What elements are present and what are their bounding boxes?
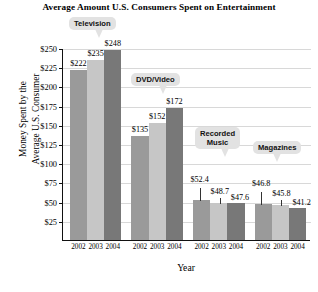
x-axis-tick-label: 2004 [167,243,181,251]
x-axis-tick-label: 2003 [212,243,226,251]
y-axis-tick-label: $200 [40,83,57,92]
callout-tail [159,85,167,94]
y-axis-tick-label: $175 [40,102,57,111]
x-axis-tick-label: 2004 [229,243,243,251]
bar-value-label: $52.4 [190,175,208,184]
chart-title: Average Amount U.S. Consumers Spent on E… [0,2,318,12]
y-axis-tick [59,145,63,146]
bar-value-label: $235 [87,49,103,58]
bar-value-label: $248 [105,39,121,48]
y-axis-tick [59,126,63,127]
y-axis-tick [59,107,63,108]
y-axis-tick-label: $50 [44,198,57,207]
callout-tail [95,29,103,38]
y-axis-tick [59,49,63,50]
bar-value-label: $47.6 [231,193,249,202]
x-axis-tick-label: 2002 [133,243,147,251]
bar[interactable] [70,70,87,240]
bar-value-label: $152 [149,112,165,121]
bar[interactable] [166,108,183,240]
plot-area: $25$50$75$100$125$150$175$200$225$250$22… [62,49,310,241]
y-axis-tick-label: $225 [40,64,57,73]
bar[interactable] [149,123,166,240]
y-axis-tick [59,68,63,69]
category-callout-line: Recorded [200,129,235,138]
category-callout: Television [69,17,116,30]
category-callout-line: Music [200,138,235,147]
bar-value-label: $45.8 [272,189,290,198]
y-axis-tick [59,87,63,88]
x-axis-tick-label: 2004 [290,243,304,251]
x-axis-tick-label: 2002 [71,243,85,251]
value-leader-line [281,200,282,206]
bar[interactable] [210,203,227,240]
x-axis-tick-label: 2002 [194,243,208,251]
callout-tail [273,153,281,162]
x-axis-tick-label: 2002 [256,243,270,251]
category-callout-line: DVD/Video [136,75,175,84]
bar-value-label: $222 [70,59,86,68]
bar-value-label: $172 [166,97,182,106]
category-callout: DVD/Video [131,73,180,86]
y-axis-title-line1: Money Spent by the [17,39,30,199]
bar-value-label: $46.8 [252,179,270,188]
category-callout-line: Magazines [258,143,296,152]
y-axis-tick [59,164,63,165]
x-axis-title: Year [62,262,310,273]
bar[interactable] [104,50,121,240]
y-axis-tick [59,222,63,223]
value-leader-line [200,188,201,201]
bar[interactable] [289,208,306,240]
y-axis-tick [59,203,63,204]
bar[interactable] [227,203,244,240]
y-axis-tick-label: $75 [44,179,57,188]
x-axis-tick-label: 2003 [88,243,102,251]
x-axis-tick-label: 2003 [273,243,287,251]
category-callout: RecordedMusic [195,127,240,149]
category-callout: Magazines [253,141,301,154]
y-axis-tick-label: $150 [40,121,57,130]
bar[interactable] [87,60,104,240]
y-axis-tick-label: $250 [40,45,57,54]
x-axis-tick-label: 2004 [106,243,120,251]
y-axis-tick [59,183,63,184]
y-axis-tick-label: $125 [40,141,57,150]
bar[interactable] [255,204,272,240]
y-axis-tick-label: $100 [40,160,57,169]
entertainment-spending-chart: Average Amount U.S. Consumers Spent on E… [0,0,318,292]
bar-value-label: $48.7 [211,187,229,196]
value-leader-line [261,192,262,205]
bar[interactable] [193,200,210,240]
category-callout-line: Television [74,19,111,28]
value-leader-line [220,198,221,204]
x-axis-tick-label: 2003 [150,243,164,251]
bar-value-label: $41.2 [292,198,310,207]
bar-value-label: $135 [132,125,148,134]
bar[interactable] [131,136,148,240]
callout-tail [221,148,229,157]
bar[interactable] [272,205,289,240]
y-axis-tick-label: $25 [44,217,57,226]
